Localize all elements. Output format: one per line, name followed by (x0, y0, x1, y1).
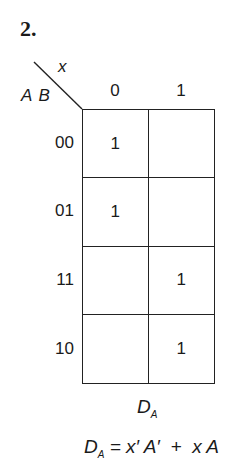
kmap-cell: 1 (83, 178, 149, 246)
kmap-cell (83, 315, 149, 383)
kmap-cell (149, 110, 215, 178)
kmap-cell (83, 247, 149, 315)
column-variable-label: x (58, 57, 67, 77)
row-header-01: 01 (30, 201, 74, 221)
boolean-equation: DA = x′ A′ + x A (84, 436, 219, 460)
kmap-cell (149, 178, 215, 246)
kmap-grid: 1 1 1 1 (82, 109, 215, 384)
row-header-11: 11 (30, 270, 74, 290)
kmap-cell: 1 (149, 315, 215, 383)
row-variables-label: A B (21, 86, 51, 106)
column-header-0: 0 (82, 81, 148, 101)
kmap-cell: 1 (149, 247, 215, 315)
kmap-cell: 1 (83, 110, 149, 178)
row-header-00: 00 (30, 133, 74, 153)
column-header-1: 1 (148, 81, 214, 101)
map-name-label: DA (137, 396, 157, 420)
row-header-10: 10 (30, 339, 74, 359)
